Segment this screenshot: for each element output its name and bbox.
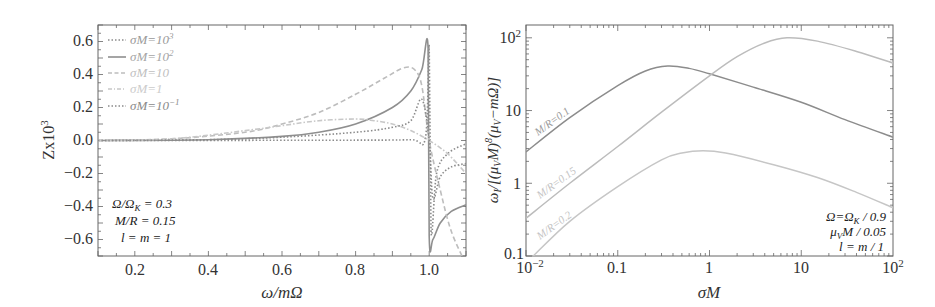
left-parameters-annotation: Ω/ΩK = 0.3 M/R = 0.15 l = m = 1 xyxy=(112,196,176,245)
x-tick-label: 0.2 xyxy=(125,261,145,278)
right-y-axis-label: ωI/[(μVM)8(μV−mΩ)] xyxy=(483,77,503,204)
x-tick-label: 1.0 xyxy=(419,261,439,278)
legend-label: σM=1 xyxy=(130,81,163,96)
right-y-tick-labels: 102 10 1 0.1 xyxy=(500,27,525,262)
y-tick-label: 0.2 xyxy=(73,98,93,115)
annotation-compactness: M/R = 0.15 xyxy=(114,213,176,228)
x-tick-label: 1 xyxy=(705,259,713,276)
left-x-tick-labels: 0.2 0.4 0.6 0.8 1.0 xyxy=(125,261,439,278)
left-x-axis-label: ω/mΩ xyxy=(261,283,302,302)
left-legend: σM=103 σM=102 σM=10 σM=1 σM=10−1 xyxy=(108,31,180,113)
left-y-axis-label: Zx103 xyxy=(38,120,57,160)
x-tick-label: 0.8 xyxy=(345,261,365,278)
curve-label-mr-0-2: M/R=0.2 xyxy=(533,208,574,242)
legend-item: σM=103 xyxy=(108,31,174,47)
legend-label: σM=102 xyxy=(130,48,174,64)
legend-item: σM=1 xyxy=(108,81,163,96)
y-tick-label: 1 xyxy=(513,175,521,192)
curve xyxy=(98,119,466,173)
y-tick-label: 0.0 xyxy=(73,131,93,148)
left-y-tick-labels: 0.6 0.4 0.2 0.0 −0.2 −0.4 −0.6 xyxy=(64,32,93,247)
y-tick-label: 0.6 xyxy=(73,32,93,49)
annotation-l-m: l = m / 1 xyxy=(839,239,884,254)
right-plot: 102 10 1 0.1 10−2 0.1 1 10 102 σM ωI/[(μ… xyxy=(483,25,904,302)
x-tick-label: 0.1 xyxy=(607,259,627,276)
y-tick-label: −0.4 xyxy=(64,197,93,214)
legend-item: σM=10 xyxy=(108,65,170,80)
curve xyxy=(98,99,466,199)
annotation-l-m: l = m = 1 xyxy=(121,230,171,245)
y-tick-label: −0.2 xyxy=(64,164,93,181)
figure: 0.6 0.4 0.2 0.0 −0.2 −0.4 −0.6 0.2 0.4 0… xyxy=(0,0,935,307)
right-parameters-annotation: Ω=ΩK / 0.9 μVM / 0.05 l = m / 1 xyxy=(826,209,886,254)
legend-label: σM=103 xyxy=(130,31,174,47)
curve xyxy=(526,38,893,219)
legend-label: σM=10−1 xyxy=(130,97,180,113)
y-tick-label: 10 xyxy=(505,102,521,119)
legend-label: σM=10 xyxy=(130,65,170,80)
left-plot: 0.6 0.4 0.2 0.0 −0.2 −0.4 −0.6 0.2 0.4 0… xyxy=(38,25,466,302)
x-tick-label: 10 xyxy=(793,259,809,276)
y-tick-label: 102 xyxy=(500,27,522,46)
x-tick-label: 10−2 xyxy=(516,257,544,276)
x-tick-label: 0.4 xyxy=(198,261,218,278)
right-x-tick-labels: 10−2 0.1 1 10 102 xyxy=(516,257,904,276)
curve xyxy=(526,66,893,152)
legend-item: σM=10−1 xyxy=(108,97,180,113)
y-tick-label: −0.6 xyxy=(64,230,93,247)
annotation-omega-ratio: Ω/ΩK = 0.3 xyxy=(112,196,172,213)
right-x-axis-label: σM xyxy=(698,283,721,302)
y-tick-label: 0.4 xyxy=(73,65,93,82)
x-tick-label: 102 xyxy=(882,257,904,276)
x-tick-label: 0.6 xyxy=(272,261,292,278)
legend-item: σM=102 xyxy=(108,48,174,64)
